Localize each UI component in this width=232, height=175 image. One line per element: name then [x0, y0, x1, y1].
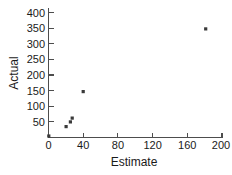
scatter-chart: 400 350 300 250 200 150 100 50 0 40 80 1…	[0, 0, 232, 175]
x-axis-ticks	[49, 133, 223, 138]
data-point	[71, 117, 74, 120]
x-axis-title: Estimate	[111, 155, 158, 169]
y-axis-tick-labels: 400 350 300 250 200 150 100 50	[27, 7, 45, 128]
x-axis-tick-labels: 0 40 80 120 160 200	[45, 139, 230, 151]
x-tick-label-80: 80	[112, 139, 124, 151]
y-tick-label-100: 100	[27, 100, 45, 112]
x-tick-label-160: 160	[178, 139, 196, 151]
data-point	[69, 120, 72, 123]
plot-area: 400 350 300 250 200 150 100 50 0 40 80 1…	[0, 0, 232, 175]
x-tick-label-40: 40	[77, 139, 89, 151]
y-axis-title: Actual	[7, 56, 21, 89]
y-axis-ticks	[49, 13, 54, 122]
y-tick-label-50: 50	[33, 116, 45, 128]
data-point	[65, 125, 68, 128]
x-tick-label-200: 200	[212, 139, 230, 151]
y-tick-label-300: 300	[27, 38, 45, 50]
data-point	[82, 90, 85, 93]
data-point	[204, 27, 207, 30]
x-tick-label-120: 120	[143, 139, 161, 151]
y-tick-label-250: 250	[27, 53, 45, 65]
data-point	[47, 134, 50, 137]
y-tick-label-350: 350	[27, 22, 45, 34]
y-tick-label-400: 400	[27, 7, 45, 19]
x-tick-label-0: 0	[45, 139, 51, 151]
y-tick-label-200: 200	[27, 69, 45, 81]
y-tick-label-150: 150	[27, 85, 45, 97]
data-points	[47, 27, 207, 137]
